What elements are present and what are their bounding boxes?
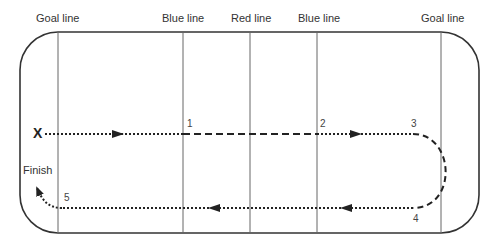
label-blue-line-left: Blue line: [162, 12, 204, 24]
arrow-icon: [208, 204, 220, 212]
label-goal-line-left: Goal line: [36, 12, 79, 24]
arrow-icon: [112, 130, 124, 138]
arrow-icon: [340, 204, 352, 212]
arrow-icon: [350, 130, 362, 138]
rink-diagram: [0, 0, 495, 244]
waypoint-5: 5: [64, 192, 70, 203]
waypoint-4: 4: [413, 213, 419, 224]
label-blue-line-right: Blue line: [298, 12, 340, 24]
waypoint-1: 1: [187, 118, 193, 129]
label-goal-line-right: Goal line: [421, 12, 464, 24]
waypoint-2: 2: [320, 118, 326, 129]
label-red-line: Red line: [231, 12, 271, 24]
finish-label: Finish: [23, 164, 52, 176]
waypoint-3: 3: [411, 118, 417, 129]
start-marker: X: [33, 125, 42, 141]
